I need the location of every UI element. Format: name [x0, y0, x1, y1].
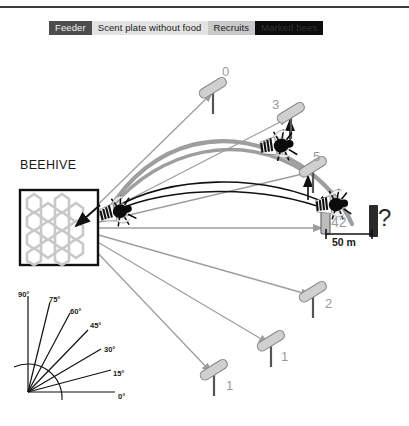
marked-bee-arc-1 — [114, 182, 330, 208]
figure-canvas: Feeder Scent plate without food Recruits… — [0, 0, 409, 426]
scene-svg — [0, 0, 409, 426]
marked-bee-arc-2 — [114, 191, 331, 211]
beehive — [20, 190, 100, 265]
angle-label-45: 45° — [90, 321, 101, 330]
feeder-marker — [369, 205, 378, 237]
angle-label-30: 30° — [104, 345, 115, 354]
angle-ray-75 — [28, 302, 50, 392]
plate-count-1-low: 1 — [226, 378, 233, 393]
plate-count-1-mid: 1 — [281, 349, 288, 364]
plate-count-0: 0 — [222, 64, 229, 79]
recruit-rays — [74, 93, 322, 372]
angle-label-0: 0° — [118, 392, 125, 401]
angle-label-75: 75° — [49, 295, 60, 304]
scent-plate-0 — [198, 76, 228, 114]
angle-label-15: 15° — [113, 369, 124, 378]
unknown-marker: ? — [378, 206, 391, 230]
scent-plates — [198, 76, 328, 396]
beehive-label: BEEHIVE — [20, 158, 76, 172]
angle-label-60: 60° — [70, 307, 81, 316]
feeder-count: 42 — [331, 214, 347, 230]
angle-scale-diagram — [14, 296, 115, 400]
scale-label: 50 m — [332, 236, 356, 248]
ray-to-plate-2 — [74, 228, 310, 295]
angle-label-90: 90° — [18, 290, 29, 299]
plate-count-2: 2 — [325, 296, 332, 311]
plate-count-5: 5 — [313, 149, 320, 164]
scent-plate-2 — [298, 280, 328, 318]
plate-count-3: 3 — [272, 97, 279, 112]
ray-to-plate-1-mid — [74, 228, 268, 343]
angle-ray-15 — [28, 370, 111, 392]
